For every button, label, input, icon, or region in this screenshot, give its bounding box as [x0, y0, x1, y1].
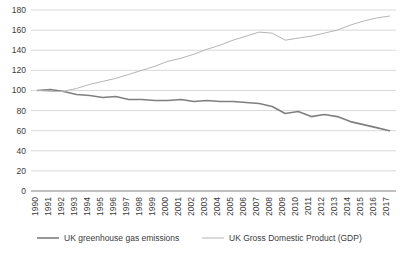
x-tick-label: 1992	[56, 197, 66, 216]
y-tick-label: 160	[12, 25, 26, 35]
x-tick-label: 2009	[277, 197, 287, 216]
y-tick-label: 80	[17, 106, 27, 116]
legend-label-0: UK greenhouse gas emissions	[64, 233, 179, 243]
x-tick-label: 1991	[43, 197, 53, 216]
x-tick-label: 2005	[225, 197, 235, 216]
x-tick-label: 1993	[69, 197, 79, 216]
chart-container: 020406080100120140160180 199019911992199…	[0, 0, 403, 253]
y-tick-label: 100	[12, 85, 26, 95]
x-tick-label: 2011	[303, 197, 313, 216]
x-tick-label: 2014	[342, 197, 352, 216]
y-tick-label: 20	[17, 166, 27, 176]
x-tick-label: 2000	[160, 197, 170, 216]
x-tick-label: 2002	[186, 197, 196, 216]
line-chart: 020406080100120140160180 199019911992199…	[0, 0, 403, 253]
x-tick-label: 2016	[368, 197, 378, 216]
y-tick-label: 0	[21, 186, 26, 196]
x-tick-label: 2012	[316, 197, 326, 216]
x-tick-label: 1990	[30, 197, 40, 216]
x-tick-label: 2015	[355, 197, 365, 216]
data-series	[38, 16, 390, 131]
series-line-1	[38, 16, 390, 91]
y-tick-label: 60	[17, 126, 27, 136]
x-tick-label: 2001	[173, 197, 183, 216]
legend-label-1: UK Gross Domestic Product (GDP)	[229, 233, 362, 243]
y-tick-label: 180	[12, 5, 26, 15]
x-tick-label: 2007	[251, 197, 261, 216]
x-tick-label: 2004	[212, 197, 222, 216]
x-tick-label: 2006	[238, 197, 248, 216]
y-axis-tick-labels: 020406080100120140160180	[12, 5, 26, 196]
x-tick-label: 1996	[108, 197, 118, 216]
y-tick-label: 40	[17, 146, 27, 156]
x-tick-label: 2017	[381, 197, 391, 216]
y-tick-label: 120	[12, 65, 26, 75]
x-tick-label: 1995	[95, 197, 105, 216]
y-tick-label: 140	[12, 45, 26, 55]
x-tick-label: 1999	[147, 197, 157, 216]
x-tick-label: 1998	[134, 197, 144, 216]
x-tick-label: 2008	[264, 197, 274, 216]
x-tick-label: 1994	[82, 197, 92, 216]
series-line-0	[38, 89, 390, 130]
x-axis-tick-labels: 1990199119921993199419951996199719981999…	[30, 197, 392, 216]
x-tick-label: 2013	[329, 197, 339, 216]
x-tick-label: 2010	[290, 197, 300, 216]
x-tick-label: 2003	[199, 197, 209, 216]
x-tick-label: 1997	[121, 197, 131, 216]
chart-legend: UK greenhouse gas emissionsUK Gross Dome…	[37, 233, 362, 243]
